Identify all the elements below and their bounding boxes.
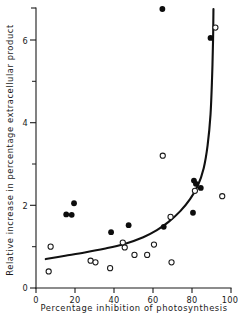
data-point xyxy=(168,214,173,219)
filled-circle-series xyxy=(63,6,213,235)
data-point xyxy=(145,252,150,257)
data-point xyxy=(108,229,114,235)
data-point xyxy=(126,222,132,228)
y-tick-label-0: 0 xyxy=(22,283,28,293)
data-point xyxy=(69,212,75,218)
x-axis-ticks xyxy=(36,288,231,293)
open-circle-series xyxy=(46,25,225,274)
data-point xyxy=(93,260,98,265)
data-point xyxy=(160,153,165,158)
y-tick-label-2: 2 xyxy=(22,201,28,211)
data-point xyxy=(190,210,196,216)
data-point xyxy=(161,224,167,230)
data-point xyxy=(132,252,137,257)
y-axis-minor-ticks xyxy=(32,81,36,246)
axes-group xyxy=(36,8,231,288)
y-tick-label-6: 6 xyxy=(22,36,28,46)
data-point xyxy=(159,6,165,12)
data-point xyxy=(46,269,51,274)
data-point xyxy=(71,200,77,206)
x-tick-label-0: 0 xyxy=(33,295,39,305)
data-point xyxy=(213,25,218,30)
fitted-curve xyxy=(46,9,214,259)
x-axis-title: Percentage inhibition of photosynthesis xyxy=(40,303,227,313)
data-point xyxy=(192,188,197,193)
data-point xyxy=(63,212,69,218)
data-point xyxy=(198,185,204,191)
data-point xyxy=(122,245,127,250)
plot-canvas: 0 20 40 60 80 100 0 2 4 6 Percentage inh… xyxy=(0,0,238,313)
data-point xyxy=(151,242,156,247)
y-axis-title: Relative increase in percentage extracel… xyxy=(5,24,15,276)
data-point xyxy=(208,35,214,41)
data-point xyxy=(193,181,199,187)
y-tick-label-4: 4 xyxy=(22,118,28,128)
y-axis-major-ticks xyxy=(30,8,36,288)
y-tick-labels: 0 2 4 6 xyxy=(22,36,28,294)
data-point xyxy=(108,266,113,271)
data-point xyxy=(169,260,174,265)
data-point xyxy=(220,194,225,199)
data-point xyxy=(48,244,53,249)
data-point xyxy=(120,240,125,245)
scatter-plot-figure: 0 20 40 60 80 100 0 2 4 6 Percentage inh… xyxy=(0,0,238,313)
